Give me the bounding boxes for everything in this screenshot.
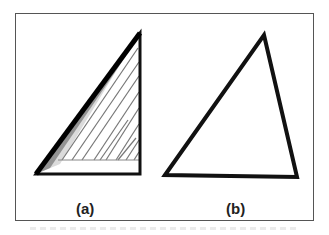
panel-a-triangle — [36, 33, 140, 174]
panel-b-triangle — [165, 35, 297, 177]
panel-a-label: (a) — [76, 200, 94, 217]
faint-caption-line — [30, 227, 300, 230]
figure-drawing — [0, 0, 329, 235]
panel-b-label: (b) — [226, 200, 245, 217]
